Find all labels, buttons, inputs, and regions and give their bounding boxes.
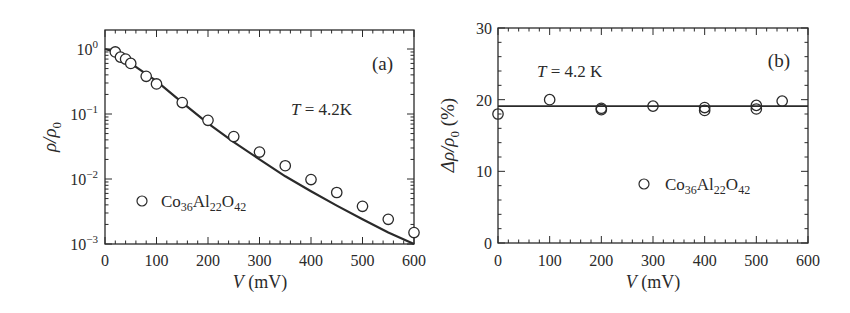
svg-text:30: 30 (476, 20, 492, 37)
data-point (229, 131, 239, 141)
svg-text:100: 100 (538, 252, 562, 269)
legend-marker-a (137, 196, 147, 206)
x-axis-label-b: V (mV) (626, 272, 681, 293)
y-axis-label-b: Δρ/ρ0 (%) (437, 98, 462, 173)
panel-a-log-resistivity-chart: 100 10−1 10−2 10−3 0 100 200 300 400 500… (39, 30, 426, 293)
svg-text:600: 600 (796, 252, 820, 269)
svg-text:100: 100 (77, 38, 99, 58)
data-point (383, 214, 393, 224)
svg-text:500: 500 (351, 252, 375, 269)
y-tick-labels-b: 0 10 20 30 (476, 20, 492, 252)
data-point (126, 58, 136, 68)
data-point (332, 187, 342, 197)
data-point (151, 79, 161, 89)
data-point (357, 201, 367, 211)
legend-label-b: Co36Al22O42 (665, 175, 750, 197)
data-point (203, 115, 213, 125)
data-point (254, 147, 264, 157)
data-point (177, 97, 187, 107)
svg-text:200: 200 (196, 252, 220, 269)
legend-marker-b (639, 179, 649, 189)
y-axis-label-a: ρ/ρ0 (39, 122, 64, 153)
y-tick-labels-a: 100 10−1 10−2 10−3 (70, 38, 98, 253)
svg-text:0: 0 (494, 252, 502, 269)
svg-text:300: 300 (641, 252, 665, 269)
data-point (306, 174, 316, 184)
x-axis-label-a: V (mV) (233, 272, 288, 293)
plot-frame-a (105, 30, 414, 244)
data-point (544, 94, 554, 104)
axis-ticks-a (105, 30, 414, 244)
legend-b: Co36Al22O42 (639, 175, 750, 197)
panel-b-magnetoresistance-chart: 0 10 20 30 0 100 200 300 400 500 600 V (… (437, 20, 820, 293)
svg-text:100: 100 (145, 252, 169, 269)
legend-a: Co36Al22O42 (137, 192, 246, 214)
panel-label-a: (a) (372, 53, 393, 75)
data-points-a (110, 47, 419, 238)
svg-text:200: 200 (589, 252, 613, 269)
svg-text:300: 300 (248, 252, 272, 269)
x-tick-labels-b: 0 100 200 300 400 500 600 (494, 252, 820, 269)
figure: 100 10−1 10−2 10−3 0 100 200 300 400 500… (0, 0, 850, 313)
plot-frame-b (498, 28, 808, 243)
svg-text:400: 400 (299, 252, 323, 269)
temperature-annotation-a: T = 4.2K (291, 100, 353, 119)
svg-text:0: 0 (101, 252, 109, 269)
svg-text:10−3: 10−3 (70, 233, 98, 253)
temperature-annotation-b: T = 4.2 K (537, 62, 603, 81)
svg-text:20: 20 (476, 92, 492, 109)
data-point (777, 96, 787, 106)
panel-label-b: (b) (768, 50, 790, 72)
x-tick-labels-a: 0 100 200 300 400 500 600 (101, 252, 426, 269)
data-point (280, 161, 290, 171)
data-point (409, 227, 419, 237)
svg-text:10−1: 10−1 (70, 103, 98, 123)
svg-text:10−2: 10−2 (70, 168, 98, 188)
legend-label-a: Co36Al22O42 (161, 192, 246, 214)
svg-text:500: 500 (744, 252, 768, 269)
axis-ticks-b (498, 28, 808, 243)
svg-text:10: 10 (476, 163, 492, 180)
data-point (141, 71, 151, 81)
svg-text:0: 0 (484, 235, 492, 252)
svg-text:400: 400 (693, 252, 717, 269)
svg-text:600: 600 (402, 252, 426, 269)
